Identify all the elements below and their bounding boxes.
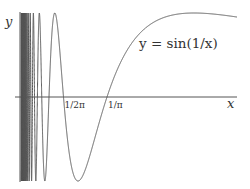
x-tick-label: 1/2π [64,100,84,110]
x-axis-label: x [227,96,235,111]
curve-label: y = sin(1/x) [138,35,218,51]
sin-inverse-x-plot: 1/2π1/π y x y = sin(1/x) [0,0,250,189]
y-axis-label: y [4,14,13,29]
x-tick-label: 1/π [108,100,123,110]
